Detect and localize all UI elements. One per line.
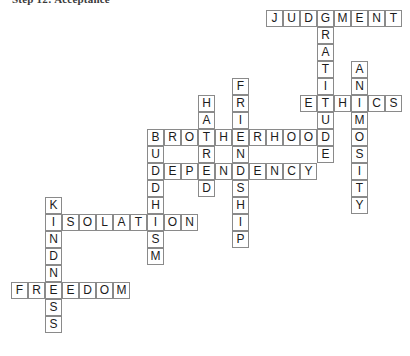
crossword-cell[interactable]: K xyxy=(45,197,62,214)
crossword-cell[interactable]: R xyxy=(164,129,181,146)
crossword-cell[interactable]: M xyxy=(351,112,368,129)
crossword-cell[interactable]: B xyxy=(147,129,164,146)
crossword-cell[interactable]: A xyxy=(113,214,130,231)
crossword-cell[interactable]: C xyxy=(368,95,385,112)
crossword-cell[interactable]: P xyxy=(232,231,249,248)
crossword-cell[interactable]: S xyxy=(62,214,79,231)
crossword-cell[interactable]: U xyxy=(317,112,334,129)
crossword-cell[interactable]: E xyxy=(317,146,334,163)
crossword-cell[interactable]: F xyxy=(11,282,28,299)
crossword-cell[interactable]: S xyxy=(351,146,368,163)
crossword-cell[interactable]: M xyxy=(334,10,351,27)
crossword-cell[interactable]: I xyxy=(351,95,368,112)
crossword-cell[interactable]: T xyxy=(198,129,215,146)
crossword-cell[interactable]: D xyxy=(232,163,249,180)
crossword-cell[interactable]: N xyxy=(368,10,385,27)
crossword-cell[interactable]: F xyxy=(232,78,249,95)
crossword-cell[interactable]: E xyxy=(164,163,181,180)
crossword-cell[interactable]: U xyxy=(283,10,300,27)
crossword-cell[interactable]: E xyxy=(249,163,266,180)
crossword-cell[interactable]: T xyxy=(317,61,334,78)
crossword-cell[interactable]: E xyxy=(351,10,368,27)
crossword-cell[interactable]: R xyxy=(317,27,334,44)
crossword-puzzle: Step 12: Acceptance JUDGMENTRATAFINHRETH… xyxy=(0,0,410,356)
crossword-cell[interactable]: G xyxy=(317,10,334,27)
crossword-cell[interactable]: D xyxy=(79,282,96,299)
crossword-cell[interactable]: L xyxy=(96,214,113,231)
crossword-cell[interactable]: A xyxy=(351,61,368,78)
crossword-cell[interactable]: T xyxy=(130,214,147,231)
crossword-cell[interactable]: E xyxy=(45,282,62,299)
crossword-cell[interactable]: I xyxy=(45,214,62,231)
crossword-cell[interactable]: U xyxy=(147,146,164,163)
crossword-cell[interactable]: T xyxy=(385,10,402,27)
crossword-cell[interactable]: H xyxy=(147,197,164,214)
crossword-cell[interactable]: M xyxy=(113,282,130,299)
crossword-cell[interactable]: S xyxy=(45,299,62,316)
crossword-cell[interactable]: S xyxy=(385,95,402,112)
crossword-cell[interactable]: Y xyxy=(351,197,368,214)
crossword-cell[interactable]: A xyxy=(317,44,334,61)
crossword-cell[interactable]: H xyxy=(198,95,215,112)
crossword-cell[interactable]: I xyxy=(232,112,249,129)
crossword-cell[interactable]: J xyxy=(266,10,283,27)
crossword-cell[interactable]: D xyxy=(317,129,334,146)
crossword-cell[interactable]: E xyxy=(300,95,317,112)
crossword-cell[interactable]: H xyxy=(266,129,283,146)
crossword-cell[interactable]: I xyxy=(351,163,368,180)
crossword-cell[interactable]: E xyxy=(62,282,79,299)
crossword-cell[interactable]: T xyxy=(351,180,368,197)
crossword-cell[interactable]: D xyxy=(147,180,164,197)
crossword-cell[interactable]: Y xyxy=(300,163,317,180)
crossword-cell[interactable]: R xyxy=(249,129,266,146)
crossword-cell[interactable]: O xyxy=(181,129,198,146)
crossword-cell[interactable]: I xyxy=(232,214,249,231)
crossword-cell[interactable]: I xyxy=(317,78,334,95)
crossword-cell[interactable]: O xyxy=(79,214,96,231)
crossword-cell[interactable]: T xyxy=(317,95,334,112)
crossword-cell[interactable]: H xyxy=(215,129,232,146)
crossword-cell[interactable]: O xyxy=(283,129,300,146)
crossword-cell[interactable]: M xyxy=(147,248,164,265)
crossword-cell[interactable]: I xyxy=(147,214,164,231)
crossword-cell[interactable]: D xyxy=(198,180,215,197)
crossword-cell[interactable]: P xyxy=(181,163,198,180)
crossword-cell[interactable]: R xyxy=(28,282,45,299)
crossword-cell[interactable]: E xyxy=(198,163,215,180)
crossword-cell[interactable]: O xyxy=(351,129,368,146)
crossword-cell[interactable]: H xyxy=(232,197,249,214)
crossword-cell[interactable]: N xyxy=(45,265,62,282)
crossword-grid: JUDGMENTRATAFINHRETHICSAIUMBROTHERHOODOU… xyxy=(0,0,410,356)
crossword-cell[interactable]: N xyxy=(232,146,249,163)
crossword-cell[interactable]: N xyxy=(45,231,62,248)
crossword-cell[interactable]: N xyxy=(266,163,283,180)
crossword-cell[interactable]: N xyxy=(181,214,198,231)
crossword-cell[interactable]: O xyxy=(300,129,317,146)
crossword-cell[interactable]: D xyxy=(147,163,164,180)
crossword-cell[interactable]: D xyxy=(45,248,62,265)
crossword-cell[interactable]: D xyxy=(300,10,317,27)
crossword-cell[interactable]: E xyxy=(232,129,249,146)
crossword-cell[interactable]: S xyxy=(232,180,249,197)
crossword-cell[interactable]: R xyxy=(198,146,215,163)
crossword-cell[interactable]: R xyxy=(232,95,249,112)
crossword-cell[interactable]: C xyxy=(283,163,300,180)
crossword-cell[interactable]: O xyxy=(96,282,113,299)
crossword-cell[interactable]: N xyxy=(215,163,232,180)
crossword-cell[interactable]: S xyxy=(45,316,62,333)
crossword-cell[interactable]: H xyxy=(334,95,351,112)
crossword-cell[interactable]: A xyxy=(198,112,215,129)
crossword-cell[interactable]: S xyxy=(147,231,164,248)
crossword-cell[interactable]: N xyxy=(351,78,368,95)
crossword-cell[interactable]: O xyxy=(164,214,181,231)
